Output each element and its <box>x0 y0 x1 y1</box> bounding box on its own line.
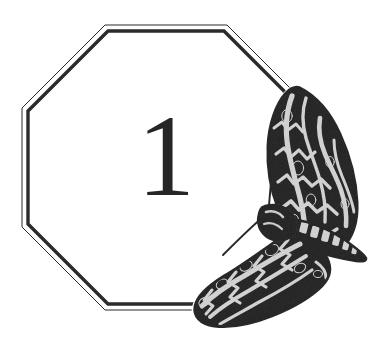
chapter-ornament-page: Octagonal double-ruled frame enclosing t… <box>0 0 392 343</box>
ornament-illustration <box>0 0 392 343</box>
